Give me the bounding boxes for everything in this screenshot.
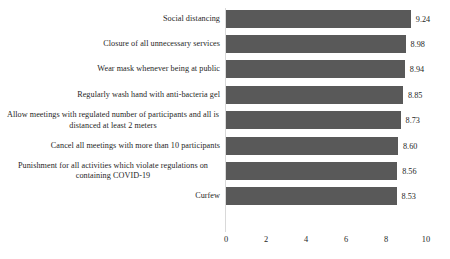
bar-value-label: 8.85 [408,90,422,99]
bar-value-label: 8.73 [406,116,420,125]
bar-value-label: 8.60 [403,141,417,150]
x-tick-label: 0 [224,234,228,246]
bar-row: Curfew 8.53 [0,184,450,209]
x-tick-label: 10 [422,234,430,246]
bar-row: Cancel all meetings with more than 10 pa… [0,133,450,158]
bar-row: Wear mask whenever being at public 8.94 [0,57,450,82]
bar[interactable] [226,10,411,28]
x-tick-label: 2 [264,234,268,246]
x-axis-ticks: 0 2 4 6 8 10 [0,234,450,250]
bar[interactable] [226,111,401,129]
bar[interactable] [226,187,397,205]
category-label: Wear mask whenever being at public [6,64,220,74]
category-label: Allow meetings with regulated number of … [6,110,220,131]
category-label: Regularly wash hand with anti-bacteria g… [6,90,220,100]
bar-row: Regularly wash hand with anti-bacteria g… [0,82,450,107]
bar-row: Social distancing 9.24 [0,6,450,31]
horizontal-bar-chart: Social distancing 9.24 Closure of all un… [0,0,450,259]
bar[interactable] [226,86,403,104]
bar[interactable] [226,35,406,53]
plot-area: Social distancing 9.24 Closure of all un… [0,0,450,232]
category-label: Cancel all meetings with more than 10 pa… [6,141,220,151]
bar-value-label: 8.56 [402,167,416,176]
bar-row: Closure of all unnecessary services 8.98 [0,31,450,56]
x-tick-label: 8 [384,234,388,246]
bar[interactable] [226,137,398,155]
bar-value-label: 9.24 [416,14,430,23]
x-tick-label: 4 [304,234,308,246]
bar-value-label: 8.98 [411,40,425,49]
category-label: Closure of all unnecessary services [6,39,220,49]
category-label: Curfew [6,191,220,201]
category-label: Punishment for all activities which viol… [6,161,220,182]
bar-value-label: 8.94 [410,65,424,74]
x-tick-label: 6 [344,234,348,246]
category-label: Social distancing [6,14,220,24]
bar-row: Punishment for all activities which viol… [0,158,450,183]
bar[interactable] [226,162,397,180]
bar-value-label: 8.53 [402,192,416,201]
bar[interactable] [226,60,405,78]
bar-row: Allow meetings with regulated number of … [0,108,450,133]
